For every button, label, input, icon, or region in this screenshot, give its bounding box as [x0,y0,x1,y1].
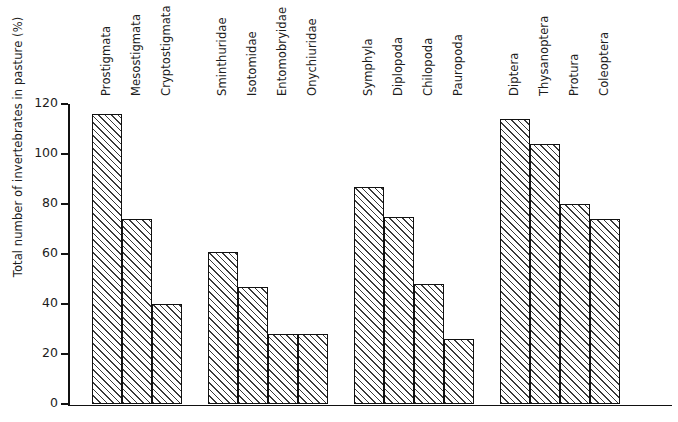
bar[interactable] [560,204,590,404]
x-axis-line [68,405,672,407]
bar-group-2 [208,104,328,404]
category-label-slot: Chilopoda [414,0,444,96]
category-label-slot: Coleoptera [590,0,620,96]
y-tick-0 [61,403,68,405]
category-label: Diptera [507,53,521,96]
bar-group-1 [92,104,182,404]
y-tick-120 [61,103,68,105]
category-label: Entomobryidae [275,7,289,96]
category-label: Prostigmata [99,26,113,96]
category-label-slot: Protura [560,0,590,96]
y-tick-label-20: 20 [20,345,58,360]
bar[interactable] [152,304,182,404]
category-label-slot: Sminthuridae [208,0,238,96]
bar[interactable] [268,334,298,404]
bar-group-3 [354,104,474,404]
bar[interactable] [354,187,384,405]
category-label: Onychiuridae [305,18,319,96]
bar[interactable] [590,219,620,404]
category-label-slot: Cryptostigmata [152,0,182,96]
category-label: Isotomidae [245,31,259,96]
category-label-slot: Prostigmata [92,0,122,96]
bar[interactable] [530,144,560,404]
y-tick-100 [61,153,68,155]
bar[interactable] [444,339,474,404]
bar[interactable] [500,119,530,404]
y-tick-label-0: 0 [20,395,58,410]
y-tick-80 [61,203,68,205]
category-label: Pauropoda [451,34,465,96]
y-tick-label-60: 60 [20,245,58,260]
category-label-slot: Isotomidae [238,0,268,96]
bar[interactable] [208,252,238,405]
bar[interactable] [384,217,414,405]
category-label-slot: Onychiuridae [298,0,328,96]
bar[interactable] [298,334,328,404]
category-label-slot: Entomobryidae [268,0,298,96]
bar[interactable] [122,219,152,404]
category-label: Sminthuridae [215,17,229,96]
category-label: Chilopoda [421,38,435,96]
y-tick-60 [61,253,68,255]
bar[interactable] [92,114,122,404]
category-label-slot: Mesostigmata [122,0,152,96]
category-label: Diplopoda [391,37,405,96]
bar[interactable] [238,287,268,405]
category-label-slot: Pauropoda [444,0,474,96]
category-labels: ProstigmataMesostigmataCryptostigmataSmi… [70,0,672,96]
y-tick-label-100: 100 [20,145,58,160]
y-tick-20 [61,353,68,355]
bar[interactable] [414,284,444,404]
y-tick-40 [61,303,68,305]
category-label: Symphyla [361,38,375,96]
category-label: Coleoptera [597,32,611,96]
category-label-slot: Diptera [500,0,530,96]
category-label: Mesostigmata [129,14,143,96]
category-label: Cryptostigmata [159,5,173,96]
category-label-slot: Symphyla [354,0,384,96]
bar-group-4 [500,104,620,404]
y-tick-label-80: 80 [20,195,58,210]
category-label-slot: Thysanoptera [530,0,560,96]
y-tick-label-120: 120 [20,95,58,110]
category-label: Protura [567,53,581,96]
plot-area [70,104,672,404]
category-label-slot: Diplopoda [384,0,414,96]
category-label: Thysanoptera [537,16,551,96]
bar-chart: Total number of invertebrates in pasture… [0,0,678,422]
y-tick-label-40: 40 [20,295,58,310]
